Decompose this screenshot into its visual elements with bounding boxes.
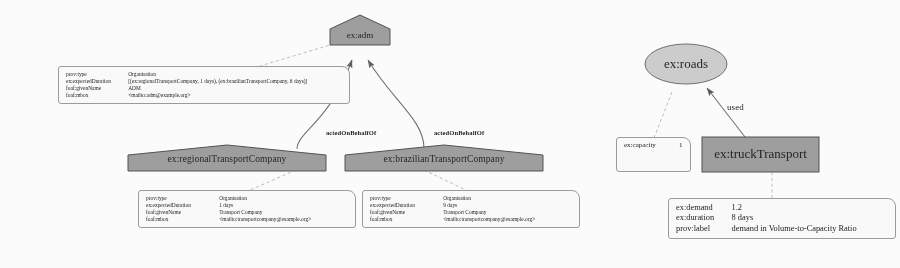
annotation-row: prov:type Organisation: [370, 195, 573, 202]
annotation-key: ex:capacity: [624, 142, 679, 151]
annotation-key: foaf:givenName: [370, 209, 443, 216]
annotation-table-truck: ex:demand 1.2 ex:duration 8 days prov:la…: [676, 203, 889, 234]
edge-used: [707, 88, 745, 137]
annotation-value: <mailto:transportcompany@example.org>: [443, 216, 573, 223]
annotation-row: foaf:givenName Transport Company: [146, 209, 349, 216]
annotation-value: Organisation: [443, 195, 573, 202]
annotation-key: ex:demand: [676, 203, 732, 213]
annotation-key: foaf:givenName: [146, 209, 219, 216]
annotation-value: 1.2: [732, 203, 889, 213]
annotation-key: ex:expectedDuration: [66, 78, 128, 85]
annotation-row: prov:label demand in Volume-to-Capacity …: [676, 224, 889, 234]
annotation-value: [(ex:regionalTransportCompany, 1 days), …: [128, 78, 343, 85]
annotation-key: prov:type: [370, 195, 443, 202]
annotation-value: Transport Company: [443, 209, 573, 216]
annotation-value: Organisation: [219, 195, 349, 202]
annotation-key: ex:expectedDuration: [146, 202, 219, 209]
annotation-value: demand in Volume-to-Capacity Ratio: [732, 224, 889, 234]
annotation-key: prov:type: [66, 71, 128, 78]
annotation-row: foaf:mbox <mailto:adm@example.org>: [66, 92, 343, 99]
annotation-key: ex:duration: [676, 213, 732, 223]
node-label-activity-truck[interactable]: ex:truckTransport: [702, 146, 819, 162]
edge-label-used: used: [727, 102, 744, 112]
annotation-key: prov:type: [146, 195, 219, 202]
annotation-row: ex:demand 1.2: [676, 203, 889, 213]
connector-regional-annotation: [250, 170, 296, 190]
annotation-table-regional: prov:type Organisation ex:expectedDurati…: [146, 195, 349, 223]
annotation-key: foaf:mbox: [66, 92, 128, 99]
annotation-value: Transport Company: [219, 209, 349, 216]
annotation-table-roads: ex:capacity 1: [624, 142, 684, 151]
node-label-agent-brazilian[interactable]: ex:brazilianTransportCompany: [345, 154, 543, 164]
annotation-key: foaf:mbox: [370, 216, 443, 223]
annotation-table-brazilian: prov:type Organisation ex:expectedDurati…: [370, 195, 573, 223]
annotation-row: prov:type Organisation: [146, 195, 349, 202]
annotation-key: ex:expectedDuration: [370, 202, 443, 209]
node-label-entity-roads[interactable]: ex:roads: [646, 56, 726, 72]
annotation-box-regional: prov:type Organisation ex:expectedDurati…: [138, 190, 356, 228]
annotation-box-adm: prov:type Organisation ex:expectedDurati…: [58, 66, 350, 104]
annotation-row: foaf:givenName ADM: [66, 85, 343, 92]
annotation-value: ADM: [128, 85, 343, 92]
annotation-table-adm: prov:type Organisation ex:expectedDurati…: [66, 71, 343, 99]
annotation-key: prov:label: [676, 224, 732, 234]
annotation-value: Organisation: [128, 71, 343, 78]
annotation-row: prov:type Organisation: [66, 71, 343, 78]
annotation-value: <mailto:adm@example.org>: [128, 92, 343, 99]
node-label-top-agent[interactable]: ex:adm: [330, 30, 390, 40]
annotation-row: foaf:givenName Transport Company: [370, 209, 573, 216]
edge-label-acted-on-behalf-of-brazilian: actedOnBehalfOf: [434, 129, 484, 136]
node-label-agent-regional[interactable]: ex:regionalTransportCompany: [128, 154, 326, 164]
annotation-box-truck: ex:demand 1.2 ex:duration 8 days prov:la…: [668, 198, 896, 239]
annotation-row: ex:capacity 1: [624, 142, 684, 151]
annotation-value: 1: [679, 142, 684, 151]
annotation-key: foaf:givenName: [66, 85, 128, 92]
edge-label-acted-on-behalf-of-regional: actedOnBehalfOf: [326, 129, 376, 136]
annotation-row: foaf:mbox <mailto:transportcompany@examp…: [370, 216, 573, 223]
annotation-value: <mailto:transportcompany@example.org>: [219, 216, 349, 223]
annotation-row: foaf:mbox <mailto:transportcompany@examp…: [146, 216, 349, 223]
annotation-row: ex:expectedDuration 9 days: [370, 202, 573, 209]
connector-roads-annotation: [654, 92, 672, 138]
annotation-value: 1 days: [219, 202, 349, 209]
edge-acted-on-behalf-of-brazilian: [368, 60, 424, 148]
annotation-row: ex:duration 8 days: [676, 213, 889, 223]
provenance-diagram-canvas: ex:adm ex:regionalTransportCompany ex:br…: [0, 0, 900, 268]
connector-adm-annotation: [260, 42, 340, 66]
annotation-value: 8 days: [732, 213, 889, 223]
annotation-row: ex:expectedDuration [(ex:regionalTranspo…: [66, 78, 343, 85]
annotation-box-roads: ex:capacity 1: [616, 137, 691, 172]
annotation-box-brazilian: prov:type Organisation ex:expectedDurati…: [362, 190, 580, 228]
annotation-row: ex:expectedDuration 1 days: [146, 202, 349, 209]
annotation-key: foaf:mbox: [146, 216, 219, 223]
connector-brazilian-annotation: [424, 170, 468, 191]
annotation-value: 9 days: [443, 202, 573, 209]
